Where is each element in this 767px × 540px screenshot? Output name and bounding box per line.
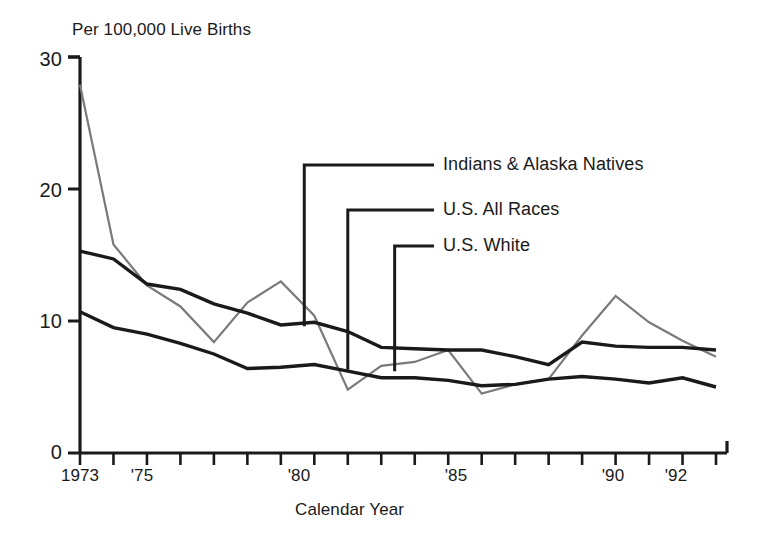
- legend-label-indians-alaska-natives: Indians & Alaska Natives: [443, 154, 644, 175]
- leader-line-u-s-white: [395, 246, 434, 371]
- data-series-group: [80, 85, 716, 394]
- x-tick-label-1973: 1973: [51, 466, 109, 486]
- x-tick-label-80: '80: [277, 466, 321, 486]
- x-tick-label-92: '92: [654, 466, 698, 486]
- series-line-u-s-all-races: [80, 251, 716, 365]
- y-tick-label-0: 0: [20, 441, 62, 464]
- page-title: Per 100,000 Live Births: [72, 20, 251, 40]
- x-tick-label-75: '75: [120, 466, 164, 486]
- y-tick-label-10: 10: [20, 310, 62, 333]
- axis-lines: [68, 57, 727, 453]
- y-tick-label-20: 20: [20, 179, 62, 202]
- chart-container: Per 100,000 Live Births 30 20 10 0 1973 …: [0, 0, 767, 540]
- chart-plot-area: [0, 0, 767, 540]
- y-tick-label-30: 30: [20, 48, 62, 71]
- legend-label-us-white: U.S. White: [443, 235, 530, 256]
- leader-line-u-s-all-races: [348, 210, 434, 370]
- x-tick-label-90: '90: [591, 466, 635, 486]
- x-axis-title: Calendar Year: [295, 500, 404, 520]
- x-tick-label-85: '85: [434, 466, 478, 486]
- x-axis-ticks: [80, 453, 716, 465]
- y-axis-ticks: [68, 57, 80, 453]
- legend-label-us-all-races: U.S. All Races: [443, 199, 559, 220]
